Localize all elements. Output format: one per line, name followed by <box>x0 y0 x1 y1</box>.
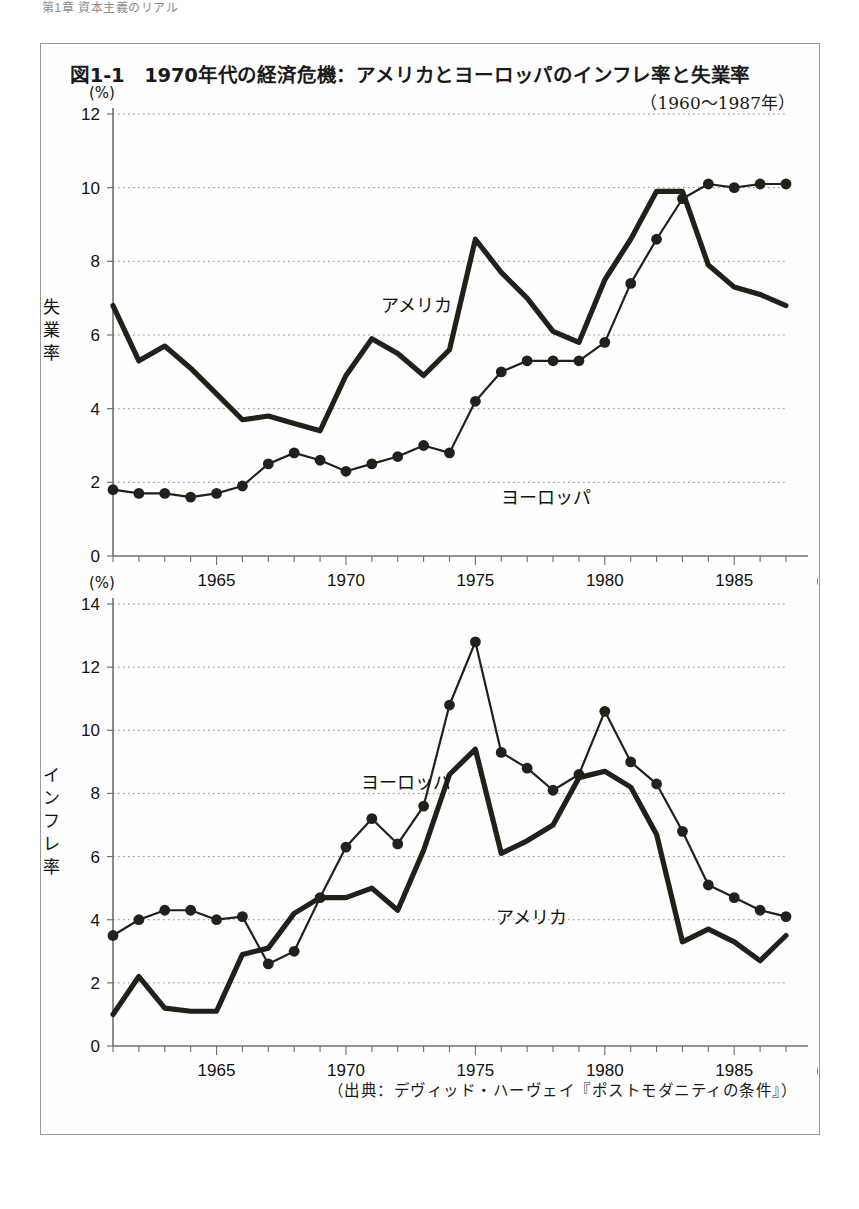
series-point-europe <box>185 905 196 916</box>
series-point-europe <box>470 636 481 647</box>
series-point-europe <box>729 182 740 193</box>
series-point-europe <box>703 880 714 891</box>
series-point-europe <box>418 801 429 812</box>
figure-container: 図1-1 1970年代の経済危機：アメリカとヨーロッパのインフレ率と失業率 （1… <box>40 43 820 1135</box>
series-label-europe-unemployment: ヨーロッパ <box>501 487 591 508</box>
y-axis-title-char: イ <box>43 765 60 785</box>
series-point-europe <box>341 842 352 853</box>
y-axis-title-char: 率 <box>43 857 60 877</box>
series-point-europe <box>211 488 222 499</box>
series-point-europe <box>133 488 144 499</box>
series-point-europe <box>496 366 507 377</box>
series-point-europe <box>625 756 636 767</box>
x-axis-unit-label: (年) <box>816 572 818 590</box>
series-point-europe <box>548 355 559 366</box>
series-point-europe <box>211 914 222 925</box>
y-axis-title-char: 率 <box>43 343 60 363</box>
series-point-europe <box>677 193 688 204</box>
series-point-europe <box>729 892 740 903</box>
y-tick-label-8: 8 <box>91 252 100 271</box>
series-point-europe <box>289 946 300 957</box>
series-point-europe <box>574 769 585 780</box>
x-tick-label-1975: 1975 <box>456 571 494 590</box>
y-tick-label-6: 6 <box>91 848 100 867</box>
series-point-europe <box>651 779 662 790</box>
series-point-europe <box>392 839 403 850</box>
series-point-europe <box>366 813 377 824</box>
series-point-europe <box>470 396 481 407</box>
series-point-europe <box>677 826 688 837</box>
charts-svg: (%)02468101219651970197519801985(年)失業率(%… <box>41 44 818 1133</box>
series-point-europe <box>133 914 144 925</box>
series-point-europe <box>781 911 792 922</box>
x-tick-label-1965: 1965 <box>198 571 236 590</box>
series-point-europe <box>599 337 610 348</box>
series-point-europe <box>289 447 300 458</box>
series-point-europe <box>392 451 403 462</box>
series-point-europe <box>263 959 274 970</box>
source-note: （出典：デヴィッド・ハーヴェイ『ポストモダニティの条件』） <box>328 1078 798 1100</box>
series-point-europe <box>159 905 170 916</box>
series-point-europe <box>237 911 248 922</box>
y-tick-label-10: 10 <box>81 721 100 740</box>
series-point-europe <box>263 459 274 470</box>
series-point-europe <box>703 179 714 190</box>
series-point-europe <box>185 492 196 503</box>
series-point-europe <box>625 278 636 289</box>
series-point-europe <box>599 706 610 717</box>
x-tick-label-1965: 1965 <box>198 1061 236 1080</box>
series-point-europe <box>522 355 533 366</box>
series-point-europe <box>108 930 119 941</box>
page-header: 第1章 資本主義のリアル <box>42 0 178 15</box>
y-axis-title-char: 失 <box>43 297 60 317</box>
y-tick-label-8: 8 <box>91 784 100 803</box>
series-point-europe <box>108 484 119 495</box>
y-tick-label-14: 14 <box>81 595 100 614</box>
series-point-europe <box>548 785 559 796</box>
series-point-europe <box>315 892 326 903</box>
y-axis-title-char: 業 <box>43 320 60 340</box>
y-axis-unit-label: (%) <box>89 574 115 592</box>
y-tick-label-2: 2 <box>91 974 100 993</box>
charts-area: (%)02468101219651970197519801985(年)失業率(%… <box>41 44 819 1134</box>
y-axis-title-char: フ <box>43 811 60 831</box>
series-point-europe <box>341 466 352 477</box>
x-tick-label-1970: 1970 <box>327 571 365 590</box>
series-point-europe <box>315 455 326 466</box>
series-point-europe <box>781 179 792 190</box>
series-point-europe <box>237 481 248 492</box>
y-axis-title-char: ン <box>43 788 60 808</box>
x-tick-label-1985: 1985 <box>715 571 753 590</box>
y-tick-label-4: 4 <box>91 911 100 930</box>
series-point-europe <box>755 905 766 916</box>
series-point-europe <box>444 447 455 458</box>
series-point-europe <box>755 179 766 190</box>
series-point-europe <box>418 440 429 451</box>
y-tick-label-12: 12 <box>81 105 100 124</box>
y-tick-label-12: 12 <box>81 658 100 677</box>
y-tick-label-2: 2 <box>91 473 100 492</box>
series-point-europe <box>159 488 170 499</box>
series-point-europe <box>366 459 377 470</box>
series-label-europe-inflation: ヨーロッパ <box>361 772 451 793</box>
series-label-america-inflation: アメリカ <box>496 907 567 928</box>
y-tick-label-10: 10 <box>81 179 100 198</box>
y-tick-label-0: 0 <box>91 547 100 566</box>
series-point-europe <box>574 355 585 366</box>
x-axis-unit-label: (年) <box>816 1062 818 1080</box>
chart-panel-unemployment: (%)02468101219651970197519801985(年)失業率 <box>43 84 819 590</box>
y-tick-label-0: 0 <box>91 1037 100 1056</box>
chart-panel-inflation: (%)0246810121419651970197519801985(年)インフ… <box>43 574 819 1080</box>
series-point-europe <box>496 747 507 758</box>
series-point-europe <box>651 234 662 245</box>
series-point-europe <box>522 763 533 774</box>
y-axis-title-char: レ <box>43 834 60 854</box>
y-tick-label-6: 6 <box>91 326 100 345</box>
x-tick-label-1980: 1980 <box>586 571 624 590</box>
y-tick-label-4: 4 <box>91 400 100 419</box>
series-label-america-unemployment: アメリカ <box>381 295 452 316</box>
series-point-europe <box>444 700 455 711</box>
y-axis-unit-label: (%) <box>89 84 115 102</box>
